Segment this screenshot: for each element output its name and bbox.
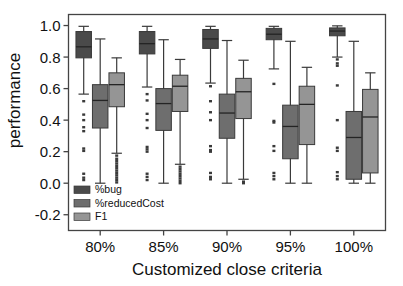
outlier-point <box>146 179 149 181</box>
boxplot-figure: 1.00.80.60.40.20.0-0.280%85%90%95%100%pe… <box>0 0 403 286</box>
outlier-point <box>115 167 118 169</box>
outlier-point <box>179 170 182 172</box>
box-bug-95% <box>266 26 282 180</box>
y-tick-label: 0.8 <box>40 49 61 66</box>
y-axis-title: performance <box>5 53 24 148</box>
legend-swatch <box>74 186 90 194</box>
outlier-point <box>336 65 339 67</box>
box-reducedCost-90% <box>219 41 235 184</box>
outlier-point <box>82 150 85 152</box>
outlier-point <box>115 158 118 160</box>
outlier-point <box>115 174 118 176</box>
outlier-point <box>209 100 212 102</box>
legend: %bug%reducedCostF1 <box>74 183 164 222</box>
box-F1-80% <box>109 58 125 184</box>
outlier-point <box>146 99 149 101</box>
outlier-point <box>115 169 118 171</box>
outlier-point <box>115 176 118 178</box>
outlier-point <box>209 145 212 147</box>
outlier-point <box>272 150 275 152</box>
legend-swatch <box>74 200 90 208</box>
outlier-point <box>179 173 182 175</box>
box-F1-90% <box>236 60 252 184</box>
box-body <box>109 73 125 107</box>
outlier-point <box>82 119 85 121</box>
outlier-point <box>179 175 182 177</box>
y-tick-label: 0.0 <box>40 175 61 192</box>
y-tick-label: 0.6 <box>40 80 61 97</box>
outlier-point <box>179 182 182 184</box>
outlier-point <box>115 172 118 174</box>
outlier-point <box>82 113 85 115</box>
outlier-point <box>146 176 149 178</box>
box-F1-85% <box>172 59 188 184</box>
outlier-point <box>209 172 212 174</box>
outlier-point <box>209 150 212 152</box>
box-bug-85% <box>139 26 155 181</box>
box-body <box>172 75 188 111</box>
outlier-point <box>209 176 212 178</box>
outlier-point <box>146 113 149 115</box>
outlier-point <box>336 171 339 173</box>
box-body <box>139 32 155 54</box>
outlier-point <box>146 173 149 175</box>
y-tick-label: 0.2 <box>40 143 61 160</box>
outlier-point <box>146 127 149 129</box>
outlier-point <box>336 62 339 64</box>
outlier-point <box>336 119 339 121</box>
outlier-point <box>179 168 182 170</box>
box-body <box>92 85 108 128</box>
outlier-point <box>272 83 275 85</box>
y-tick-label: -0.2 <box>35 206 61 223</box>
outlier-point <box>336 178 339 180</box>
outlier-point <box>115 154 118 156</box>
box-body <box>236 78 252 118</box>
box-reducedCost-100% <box>346 41 362 183</box>
box-body <box>330 28 346 36</box>
outlier-point <box>272 175 275 177</box>
box-reducedCost-80% <box>92 39 108 183</box>
chart-canvas: 1.00.80.60.40.20.0-0.280%85%90%95%100%pe… <box>0 0 403 286</box>
box-body <box>76 32 92 58</box>
outlier-point <box>272 121 275 123</box>
outlier-point <box>336 84 339 86</box>
outlier-point <box>115 160 118 162</box>
outlier-point <box>146 150 149 152</box>
legend-label: %reducedCost <box>95 197 164 209</box>
outlier-point <box>179 180 182 182</box>
box-F1-100% <box>363 73 379 183</box>
box-bug-80% <box>76 26 92 181</box>
outlier-point <box>82 100 85 102</box>
outlier-point <box>179 165 182 167</box>
outlier-point <box>82 147 85 149</box>
legend-label: F1 <box>95 210 107 222</box>
outlier-point <box>336 147 339 149</box>
box-bug-90% <box>203 26 219 180</box>
outlier-point <box>146 148 149 150</box>
outlier-point <box>209 178 212 180</box>
box-reducedCost-85% <box>156 40 172 183</box>
box-reducedCost-95% <box>283 41 299 183</box>
outlier-point <box>272 178 275 180</box>
x-tick-label: 80% <box>85 238 115 255</box>
legend-swatch <box>74 213 90 221</box>
outlier-point <box>82 173 85 175</box>
outlier-point <box>242 182 245 184</box>
box-body <box>363 89 379 173</box>
outlier-point <box>146 93 149 95</box>
box-body <box>283 105 299 159</box>
outlier-point <box>179 177 182 179</box>
box-body <box>346 111 362 179</box>
legend-label: %bug <box>95 183 122 195</box>
outlier-point <box>115 162 118 164</box>
outlier-point <box>209 111 212 113</box>
outlier-point <box>82 176 85 178</box>
y-tick-label: 1.0 <box>40 17 61 34</box>
outlier-point <box>209 119 212 121</box>
box-body <box>299 86 315 144</box>
box-bug-100% <box>330 26 346 181</box>
outlier-point <box>82 130 85 132</box>
box-body <box>219 94 235 138</box>
x-tick-label: 85% <box>149 238 179 255</box>
outlier-point <box>336 58 339 60</box>
